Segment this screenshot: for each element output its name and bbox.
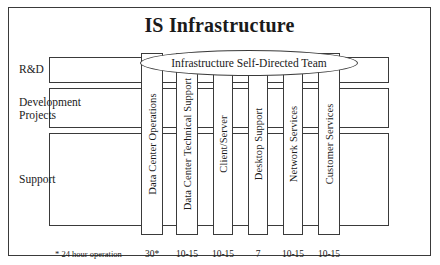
column-data-center-technical-support: Data Center Technical Support bbox=[176, 53, 198, 235]
headcount-customer-services: 10-15 bbox=[304, 249, 354, 259]
diagram-title: IS Infrastructure bbox=[9, 14, 430, 37]
diagram-frame: IS Infrastructure R&D Development Projec… bbox=[8, 7, 431, 256]
self-directed-team-label: Infrastructure Self-Directed Team bbox=[171, 57, 326, 69]
column-desktop-support: Desktop Support bbox=[248, 53, 268, 235]
row-label-support: Support bbox=[19, 173, 55, 186]
row-label-development-projects: Development Projects bbox=[19, 96, 81, 122]
column-label-desktop-support: Desktop Support bbox=[253, 108, 264, 180]
row-label-rd: R&D bbox=[19, 63, 44, 76]
column-client-server: Client/Server bbox=[213, 53, 233, 235]
column-label-data-center-technical-support: Data Center Technical Support bbox=[182, 78, 193, 210]
column-data-center-operations: Data Center Operations bbox=[141, 53, 163, 235]
self-directed-team-ellipse: Infrastructure Self-Directed Team bbox=[140, 50, 358, 76]
column-network-services: Network Services bbox=[283, 53, 303, 235]
column-customer-services: Customer Services bbox=[318, 53, 340, 235]
footnote-24-hour-operation: * 24 hour operation bbox=[55, 249, 122, 259]
column-label-network-services: Network Services bbox=[288, 106, 299, 183]
column-label-client-server: Client/Server bbox=[218, 115, 229, 172]
column-label-customer-services: Customer Services bbox=[324, 104, 335, 185]
column-label-data-center-operations: Data Center Operations bbox=[147, 93, 158, 194]
